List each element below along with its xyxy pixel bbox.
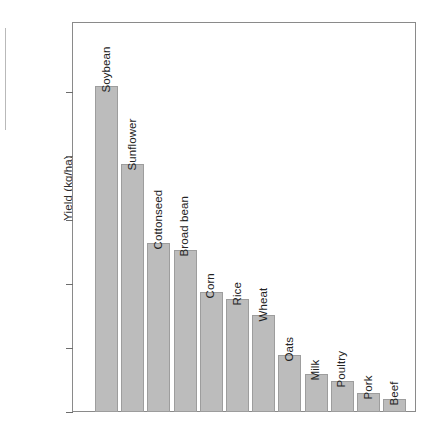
bar-series: SoybeanSunflowerCottonseedBroad beanCorn… [0, 0, 434, 442]
bar-label: Pork [362, 375, 374, 399]
figure: Yield (kg/ha) 0100200300400500 SoybeanSu… [0, 0, 434, 442]
bar[interactable] [200, 292, 223, 412]
bar-label: Soybean [100, 46, 112, 92]
bar[interactable] [278, 355, 301, 412]
bar-label: Corn [205, 273, 217, 298]
bar-group[interactable] [278, 355, 301, 412]
bar-label: Rice [231, 282, 243, 305]
bar-label: Sunflower [126, 118, 138, 170]
bar[interactable] [226, 299, 249, 412]
bar-label: Cottonseed [152, 190, 164, 250]
bar-label: Broad bean [179, 196, 191, 256]
bar-group[interactable] [226, 299, 249, 412]
bar[interactable] [147, 243, 170, 412]
bar[interactable] [174, 250, 197, 412]
bar-label: Beef [388, 382, 400, 406]
bar[interactable] [252, 315, 275, 412]
bar-group[interactable] [174, 250, 197, 412]
bar-label: Wheat [257, 287, 269, 321]
bar-label: Poultry [336, 351, 348, 388]
bar-group[interactable] [252, 315, 275, 412]
bar-group[interactable] [147, 243, 170, 412]
bar[interactable] [95, 86, 118, 412]
bar-group[interactable] [121, 164, 144, 412]
bar-label: Milk [310, 359, 322, 380]
bar-group[interactable] [200, 292, 223, 412]
bar[interactable] [121, 164, 144, 412]
bar-label: Oats [283, 337, 295, 362]
bar-group[interactable] [95, 86, 118, 412]
